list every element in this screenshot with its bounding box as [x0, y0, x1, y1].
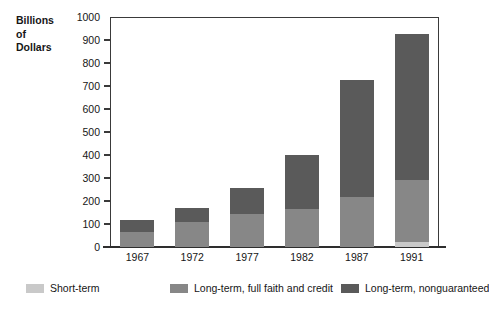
legend-label: Long-term, nonguaranteed: [365, 283, 489, 294]
y-axis-tick-label: 700: [56, 81, 100, 92]
bar-segment: [230, 214, 264, 247]
y-axis-tick-label: 100: [56, 219, 100, 230]
legend-item[interactable]: Long-term, full faith and credit: [170, 283, 333, 294]
x-axis-tick-label: 1972: [165, 251, 220, 263]
chart-legend: Short-termLong-term, full faith and cred…: [26, 283, 456, 297]
legend-swatch-icon: [170, 284, 188, 293]
legend-label: Long-term, full faith and credit: [194, 283, 333, 294]
y-axis-tick: [104, 108, 111, 109]
bar-segment: [120, 220, 154, 232]
x-axis-labels: 196719721977198219871991: [110, 251, 439, 267]
y-axis-tick-label: 500: [56, 127, 100, 138]
bar-segment: [285, 209, 319, 247]
bar-group-1991: [395, 34, 429, 247]
legend-item[interactable]: Short-term: [26, 283, 100, 294]
y-axis-labels: 01002003004005006007008009001000: [54, 0, 100, 314]
y-axis-tick-label: 200: [56, 196, 100, 207]
bar-segment: [230, 188, 264, 214]
y-axis-tick-label: 1000: [56, 12, 100, 23]
y-axis-tick-label: 900: [56, 35, 100, 46]
y-axis-tick: [104, 177, 111, 178]
bar-group-1987: [340, 80, 374, 247]
x-axis-tick-label: 1977: [220, 251, 275, 263]
y-axis-tick-label: 0: [56, 242, 100, 253]
bar-segment: [395, 242, 429, 247]
bar-segment: [285, 155, 319, 209]
y-axis-tick-label: 600: [56, 104, 100, 115]
bar-group-1972: [175, 208, 209, 247]
bar-series-container: [110, 17, 439, 247]
legend-swatch-icon: [341, 284, 359, 293]
y-axis-tick: [104, 200, 111, 201]
y-axis-tick: [104, 223, 111, 224]
bar-segment: [340, 197, 374, 247]
x-axis-tick-label: 1991: [384, 251, 439, 263]
y-axis-tick: [104, 131, 111, 132]
legend-label: Short-term: [50, 283, 100, 294]
legend-item[interactable]: Long-term, nonguaranteed: [341, 283, 489, 294]
legend-swatch-icon: [26, 284, 44, 293]
bar-group-1977: [230, 188, 264, 247]
bar-segment: [340, 80, 374, 197]
y-axis-tick: [104, 85, 111, 86]
bar-group-1982: [285, 155, 319, 247]
bar-group-1967: [120, 220, 154, 247]
x-axis-tick-label: 1982: [275, 251, 330, 263]
bar-segment: [175, 208, 209, 222]
y-axis-tick: [104, 154, 111, 155]
bar-segment: [175, 222, 209, 247]
y-axis-tick-label: 800: [56, 58, 100, 69]
bar-segment: [120, 232, 154, 247]
y-axis-tick: [104, 62, 111, 63]
bar-segment: [395, 180, 429, 242]
bar-segment: [395, 34, 429, 180]
y-axis-tick-label: 400: [56, 150, 100, 161]
y-axis-tick: [104, 39, 111, 40]
y-axis-tick-label: 300: [56, 173, 100, 184]
x-axis-tick-label: 1987: [329, 251, 384, 263]
x-axis-tick-label: 1967: [110, 251, 165, 263]
